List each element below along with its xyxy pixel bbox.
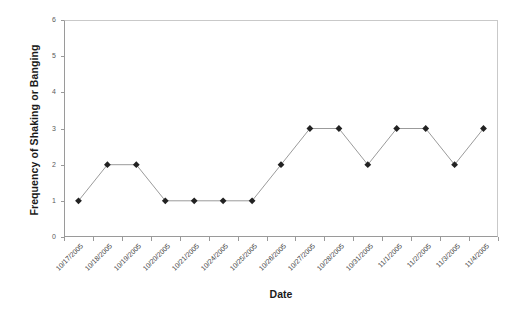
- x-tick-mark: [469, 237, 470, 241]
- x-tick-mark: [64, 237, 65, 241]
- y-tick-mark: [61, 56, 64, 57]
- y-tick-label: 1: [42, 197, 56, 204]
- x-axis-title: Date: [64, 288, 498, 300]
- x-tick-mark: [238, 237, 239, 241]
- x-tick-mark: [411, 237, 412, 241]
- x-tick-mark: [382, 237, 383, 241]
- y-tick-mark: [61, 92, 64, 93]
- x-tick-mark: [180, 237, 181, 241]
- x-tick-mark: [498, 237, 499, 241]
- x-tick-mark: [295, 237, 296, 241]
- x-tick-mark: [209, 237, 210, 241]
- x-tick-mark: [324, 237, 325, 241]
- y-tick-label: 5: [42, 52, 56, 59]
- chart-screenshot: Frequency of Shaking or Banging 0123456 …: [0, 0, 515, 320]
- y-tick-mark: [61, 20, 64, 21]
- y-tick-label: 6: [42, 16, 56, 23]
- x-tick-mark: [440, 237, 441, 241]
- y-tick-label: 2: [42, 161, 56, 168]
- y-tick-mark: [61, 201, 64, 202]
- y-tick-mark: [61, 165, 64, 166]
- x-tick-mark: [151, 237, 152, 241]
- y-axis-title: Frequency of Shaking or Banging: [24, 10, 44, 250]
- y-tick-label: 4: [42, 88, 56, 95]
- y-tick-label: 3: [42, 125, 56, 132]
- y-tick-label: 0: [42, 233, 56, 240]
- x-tick-mark: [122, 237, 123, 241]
- x-tick-mark: [267, 237, 268, 241]
- x-tick-mark: [353, 237, 354, 241]
- plot-area: [64, 20, 498, 237]
- y-tick-mark: [61, 129, 64, 130]
- x-tick-mark: [93, 237, 94, 241]
